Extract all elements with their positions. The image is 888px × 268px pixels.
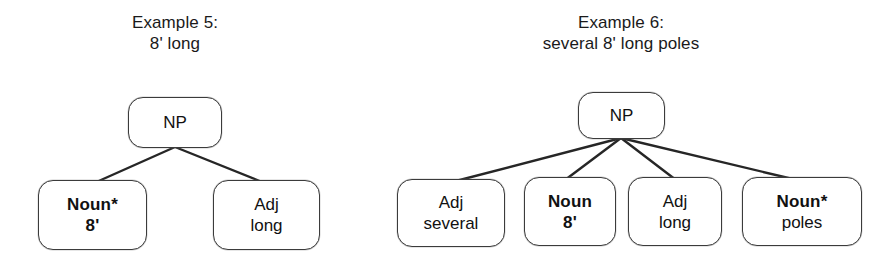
- tree-title-line2: several 8' long poles: [481, 33, 761, 54]
- edge-t6-np-to-adj-long: [621, 138, 676, 180]
- node-label-category: Noun*: [67, 194, 118, 215]
- node-t6-noun-star-poles[interactable]: Noun* poles: [742, 177, 862, 246]
- node-label-word: long: [659, 212, 691, 233]
- node-t5-adj-long[interactable]: Adj long: [213, 180, 320, 250]
- edge-t6-np-to-noun-8ft: [565, 138, 621, 180]
- tree-title-example-5: Example 5: 8' long: [55, 12, 295, 54]
- edge-t6-np-to-noun-poles: [621, 138, 797, 180]
- tree-title-line2: 8' long: [55, 33, 295, 54]
- node-t6-adj-several[interactable]: Adj several: [397, 179, 505, 247]
- figure-canvas: Example 5: 8' long NP Noun* 8' Adj long …: [0, 0, 888, 268]
- edge-t5-np-to-adj: [175, 147, 267, 184]
- node-label: NP: [163, 112, 187, 133]
- tree-title-line1: Example 6:: [481, 12, 761, 33]
- node-label-word: long: [250, 215, 282, 236]
- node-label-word: several: [424, 213, 479, 234]
- tree-title-line1: Example 5:: [55, 12, 295, 33]
- node-label-category: Noun*: [776, 191, 827, 212]
- node-label: NP: [610, 105, 634, 126]
- node-t6-adj-long[interactable]: Adj long: [628, 177, 722, 246]
- edge-t6-np-to-adj-several: [452, 138, 621, 182]
- node-t6-noun-8ft[interactable]: Noun 8': [524, 177, 616, 246]
- node-label-word: 8': [86, 215, 100, 236]
- edge-t5-np-to-noun: [92, 147, 175, 184]
- node-label-word: poles: [782, 212, 823, 233]
- node-label-word: 8': [563, 212, 577, 233]
- node-t5-noun-star-8ft[interactable]: Noun* 8': [38, 180, 147, 250]
- node-t5-np[interactable]: NP: [128, 97, 222, 148]
- node-label-category: Adj: [439, 192, 464, 213]
- node-label-category: Adj: [663, 191, 688, 212]
- tree-title-example-6: Example 6: several 8' long poles: [481, 12, 761, 54]
- node-label-category: Noun: [548, 191, 592, 212]
- node-t6-np[interactable]: NP: [578, 92, 665, 139]
- node-label-category: Adj: [254, 194, 279, 215]
